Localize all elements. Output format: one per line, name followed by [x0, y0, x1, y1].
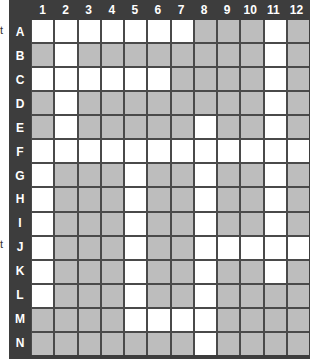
cell-I4 [102, 213, 123, 235]
cell-C8 [195, 68, 216, 90]
cell-A7 [172, 20, 193, 42]
cell-D4 [102, 92, 123, 114]
cell-B1 [32, 44, 53, 66]
cell-N10 [241, 333, 262, 355]
cell-M4 [102, 309, 123, 331]
cell-F8 [195, 140, 216, 162]
cell-I9 [218, 213, 239, 235]
cell-M12 [288, 309, 309, 331]
cell-D8 [195, 92, 216, 114]
cell-J1 [32, 237, 53, 259]
cell-M7 [172, 309, 193, 331]
cell-C9 [218, 68, 239, 90]
cell-G3 [79, 164, 100, 186]
cell-K7 [172, 261, 193, 283]
cell-K12 [288, 261, 309, 283]
cell-G4 [102, 164, 123, 186]
cell-H5 [125, 188, 146, 210]
row-header-G: G [9, 164, 31, 188]
cell-K4 [102, 261, 123, 283]
cell-K11 [265, 261, 286, 283]
row-header-A: A [9, 20, 31, 44]
cell-H10 [241, 188, 262, 210]
cell-M11 [265, 309, 286, 331]
cell-I7 [172, 213, 193, 235]
cell-C7 [172, 68, 193, 90]
cell-G11 [265, 164, 286, 186]
column-header-1: 1 [31, 0, 54, 20]
cell-H6 [148, 188, 169, 210]
column-header-3: 3 [77, 0, 100, 20]
column-header-7: 7 [170, 0, 193, 20]
cell-E11 [265, 116, 286, 138]
cell-L1 [32, 285, 53, 307]
cell-H4 [102, 188, 123, 210]
cell-H7 [172, 188, 193, 210]
cell-G6 [148, 164, 169, 186]
grid [31, 20, 309, 355]
cell-J9 [218, 237, 239, 259]
cell-N7 [172, 333, 193, 355]
cell-C12 [288, 68, 309, 90]
cell-G1 [32, 164, 53, 186]
cell-G2 [55, 164, 76, 186]
cell-N11 [265, 333, 286, 355]
cell-I12 [288, 213, 309, 235]
row-header-J: J [9, 235, 31, 259]
cell-J11 [265, 237, 286, 259]
cell-K10 [241, 261, 262, 283]
cell-C11 [265, 68, 286, 90]
cell-I5 [125, 213, 146, 235]
cell-H8 [195, 188, 216, 210]
cell-A4 [102, 20, 123, 42]
cell-N8 [195, 333, 216, 355]
cell-C3 [79, 68, 100, 90]
cell-L2 [55, 285, 76, 307]
cell-M6 [148, 309, 169, 331]
cell-N3 [79, 333, 100, 355]
row-header-F: F [9, 140, 31, 164]
cell-E3 [79, 116, 100, 138]
cell-C4 [102, 68, 123, 90]
cell-G7 [172, 164, 193, 186]
cell-I10 [241, 213, 262, 235]
cell-D6 [148, 92, 169, 114]
cell-B11 [265, 44, 286, 66]
cell-N4 [102, 333, 123, 355]
cell-I3 [79, 213, 100, 235]
cell-F10 [241, 140, 262, 162]
cell-N1 [32, 333, 53, 355]
cell-H11 [265, 188, 286, 210]
cell-D7 [172, 92, 193, 114]
cell-A2 [55, 20, 76, 42]
cell-E1 [32, 116, 53, 138]
cell-M9 [218, 309, 239, 331]
cell-N6 [148, 333, 169, 355]
cell-E7 [172, 116, 193, 138]
cell-C6 [148, 68, 169, 90]
cell-E8 [195, 116, 216, 138]
cell-M3 [79, 309, 100, 331]
cell-B12 [288, 44, 309, 66]
cell-D3 [79, 92, 100, 114]
cell-K2 [55, 261, 76, 283]
cell-N5 [125, 333, 146, 355]
cell-M8 [195, 309, 216, 331]
cell-B2 [55, 44, 76, 66]
column-header-8: 8 [193, 0, 216, 20]
cell-A5 [125, 20, 146, 42]
cell-C5 [125, 68, 146, 90]
cell-J4 [102, 237, 123, 259]
cell-D10 [241, 92, 262, 114]
cell-C2 [55, 68, 76, 90]
cell-J10 [241, 237, 262, 259]
cell-H1 [32, 188, 53, 210]
cell-F9 [218, 140, 239, 162]
cell-H9 [218, 188, 239, 210]
cell-F1 [32, 140, 53, 162]
cell-L5 [125, 285, 146, 307]
cell-K9 [218, 261, 239, 283]
cell-E4 [102, 116, 123, 138]
cell-K3 [79, 261, 100, 283]
cell-A3 [79, 20, 100, 42]
